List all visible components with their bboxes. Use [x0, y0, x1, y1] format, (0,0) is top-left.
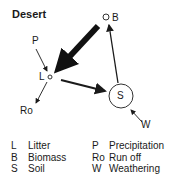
- litter-node: [48, 75, 52, 79]
- arrow-soil-to-biomass: [109, 25, 118, 83]
- runoff-label: Ro: [20, 105, 33, 116]
- legend-key: P: [92, 140, 109, 152]
- legend-value: Litter: [28, 140, 92, 152]
- weathering-label: W: [141, 119, 150, 130]
- legend: L Litter P Precipitation B Biomass Ro Ru…: [11, 140, 164, 175]
- legend-key: L: [11, 140, 28, 152]
- legend-value: Soil: [28, 163, 92, 175]
- legend-value: Run off: [109, 152, 141, 164]
- litter-label: L: [39, 71, 45, 82]
- legend-row: S Soil W Weathering: [11, 163, 164, 175]
- legend-row: B Biomass Ro Run off: [11, 152, 164, 164]
- arrow-litter-to-runoff: [36, 82, 47, 103]
- arrow-litter-to-soil: [61, 80, 105, 91]
- arrow-biomass-to-litter: [58, 26, 98, 69]
- legend-key: B: [11, 152, 28, 164]
- arrow-precipitation-to-litter: [36, 49, 47, 71]
- legend-value: Biomass: [28, 152, 92, 164]
- legend-value: Weathering: [109, 163, 160, 175]
- biomass-node: [103, 14, 109, 20]
- legend-key: W: [92, 163, 109, 175]
- legend-key: Ro: [92, 152, 109, 164]
- precipitation-label: P: [32, 35, 39, 46]
- legend-value: Precipitation: [109, 140, 164, 152]
- biomass-label: B: [112, 12, 119, 23]
- legend-row: L Litter P Precipitation: [11, 140, 164, 152]
- legend-key: S: [11, 163, 28, 175]
- soil-label: S: [117, 90, 124, 101]
